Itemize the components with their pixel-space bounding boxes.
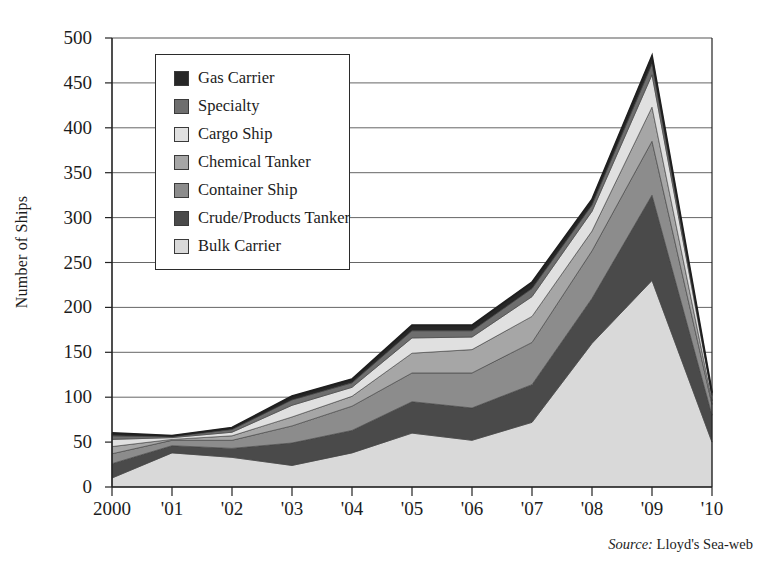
legend-item-label: Container Ship — [198, 180, 297, 200]
legend-item: Chemical Tanker — [174, 148, 349, 176]
legend-item: Bulk Carrier — [174, 232, 349, 260]
chart-legend: Gas CarrierSpecialtyCargo ShipChemical T… — [155, 54, 350, 270]
legend-swatch-icon — [174, 239, 189, 254]
legend-item-label: Cargo Ship — [198, 124, 272, 144]
legend-item-label: Chemical Tanker — [198, 152, 311, 172]
y-tick-marks — [105, 38, 112, 487]
x-tick-marks — [112, 487, 712, 496]
legend-item: Cargo Ship — [174, 120, 349, 148]
legend-item-label: Gas Carrier — [198, 68, 275, 88]
legend-item: Container Ship — [174, 176, 349, 204]
legend-swatch-icon — [174, 99, 189, 114]
plot-area — [0, 0, 777, 582]
legend-swatch-icon — [174, 127, 189, 142]
source-note: Source: Lloyd's Sea-web — [608, 536, 753, 553]
source-prefix: Source: — [608, 536, 653, 552]
legend-swatch-icon — [174, 183, 189, 198]
legend-swatch-icon — [174, 71, 189, 86]
legend-item: Specialty — [174, 92, 349, 120]
source-value: Lloyd's Sea-web — [657, 536, 753, 552]
x-tick-10: '10 — [672, 498, 752, 520]
legend-item-label: Specialty — [198, 96, 259, 116]
legend-item-label: Bulk Carrier — [198, 236, 281, 256]
legend-item: Gas Carrier — [174, 64, 349, 92]
chart-figure: Number of Ships 500450400350300250200150… — [0, 0, 777, 582]
legend-item: Crude/Products Tanker — [174, 204, 349, 232]
legend-item-label: Crude/Products Tanker — [198, 208, 350, 228]
legend-swatch-icon — [174, 155, 189, 170]
legend-swatch-icon — [174, 211, 189, 226]
